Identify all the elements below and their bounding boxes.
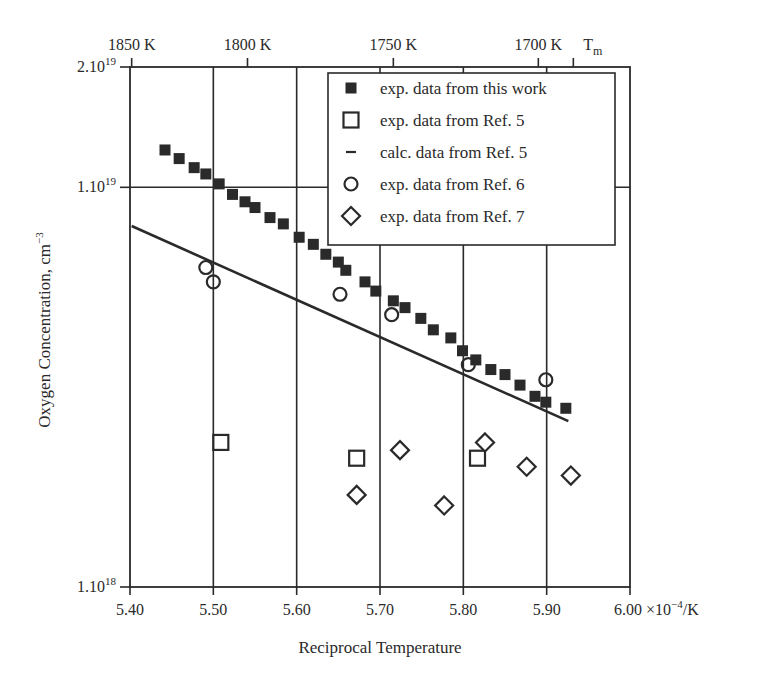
filled-square-marker bbox=[400, 302, 411, 313]
open-square-marker bbox=[470, 451, 485, 466]
open-circle-marker bbox=[199, 261, 212, 274]
x-tick-label: 5.90 bbox=[533, 601, 561, 618]
filled-square-marker bbox=[485, 364, 496, 375]
filled-square-marker bbox=[240, 196, 251, 207]
open-circle-marker bbox=[539, 373, 552, 386]
filled-square-marker bbox=[174, 153, 185, 164]
filled-square-marker bbox=[227, 189, 238, 200]
filled-square-marker bbox=[250, 202, 261, 213]
open-diamond-marker bbox=[435, 496, 453, 514]
legend-label: exp. data from Ref. 6 bbox=[380, 175, 524, 194]
series-open-square bbox=[213, 435, 485, 466]
open-diamond-marker bbox=[562, 467, 580, 485]
y-axis-title: Oxygen Concentration, cm−3 bbox=[33, 232, 54, 428]
x-axis-ticks: 5.405.505.605.705.805.906.00 ×10−4/K bbox=[116, 587, 699, 618]
filled-square-marker bbox=[388, 295, 399, 306]
open-square-marker bbox=[349, 451, 364, 466]
filled-square-marker bbox=[320, 249, 331, 260]
filled-square-marker bbox=[560, 403, 571, 414]
legend-label: exp. data from Ref. 5 bbox=[380, 111, 524, 130]
legend-label: calc. data from Ref. 5 bbox=[380, 143, 527, 162]
x-tick-label: 5.60 bbox=[283, 601, 311, 618]
open-square-marker bbox=[344, 113, 359, 128]
filled-square-marker bbox=[540, 397, 551, 408]
open-diamond-marker bbox=[518, 458, 536, 476]
open-diamond-marker bbox=[348, 486, 366, 504]
filled-square-marker bbox=[370, 286, 381, 297]
x-tick-label: 5.50 bbox=[199, 601, 227, 618]
legend-label: exp. data from this work bbox=[380, 79, 547, 98]
filled-square-marker bbox=[500, 369, 511, 380]
filled-square-marker bbox=[294, 232, 305, 243]
top-tick-label: 1750 K bbox=[370, 36, 418, 53]
open-square-marker bbox=[213, 435, 228, 450]
top-tick-label: 1850 K bbox=[108, 36, 156, 53]
x-axis-title: Reciprocal Temperature bbox=[298, 638, 461, 657]
filled-square-marker bbox=[445, 332, 456, 343]
filled-square-marker bbox=[428, 324, 439, 335]
melting-point-label: Tm bbox=[583, 36, 603, 58]
top-temperature-axis: 1850 K1800 K1750 K1700 KTm bbox=[108, 36, 603, 67]
filled-square-marker bbox=[457, 345, 468, 356]
filled-square-marker bbox=[214, 178, 225, 189]
filled-square-marker bbox=[340, 265, 351, 276]
filled-square-marker bbox=[278, 218, 289, 229]
filled-square-marker bbox=[360, 276, 371, 287]
legend-label: exp. data from Ref. 7 bbox=[380, 207, 525, 226]
top-tick-label: 1700 K bbox=[515, 36, 563, 53]
filled-square-marker bbox=[200, 168, 211, 179]
open-diamond-marker bbox=[391, 441, 409, 459]
y-tick-label: 1.1019 bbox=[77, 175, 117, 195]
filled-square-marker bbox=[415, 313, 426, 324]
oxygen-concentration-chart: 1850 K1800 K1750 K1700 KTm 5.405.505.605… bbox=[0, 0, 766, 678]
open-circle-marker bbox=[385, 308, 398, 321]
x-tick-label: 5.40 bbox=[116, 601, 144, 618]
top-tick-label: 1800 K bbox=[224, 36, 272, 53]
y-axis-ticks: 2.10191.10191.1018 bbox=[77, 55, 130, 595]
filled-square-marker bbox=[346, 83, 357, 94]
series-line bbox=[132, 226, 569, 421]
x-tick-label: 5.80 bbox=[449, 601, 477, 618]
open-circle-marker bbox=[334, 288, 347, 301]
y-tick-label: 1.1018 bbox=[77, 575, 117, 595]
filled-square-marker bbox=[308, 239, 319, 250]
calc-line bbox=[132, 226, 569, 421]
x-tick-label: 5.70 bbox=[366, 601, 394, 618]
y-tick-label: 2.1019 bbox=[77, 55, 117, 75]
filled-square-marker bbox=[265, 212, 276, 223]
legend: exp. data from this workexp. data from R… bbox=[328, 73, 615, 245]
filled-square-marker bbox=[189, 162, 200, 173]
x-tick-label: 6.00 ×10−4/K bbox=[614, 598, 699, 618]
filled-square-marker bbox=[530, 391, 541, 402]
filled-square-marker bbox=[160, 144, 171, 155]
open-diamond-marker bbox=[476, 433, 494, 451]
filled-square-marker bbox=[515, 380, 526, 391]
